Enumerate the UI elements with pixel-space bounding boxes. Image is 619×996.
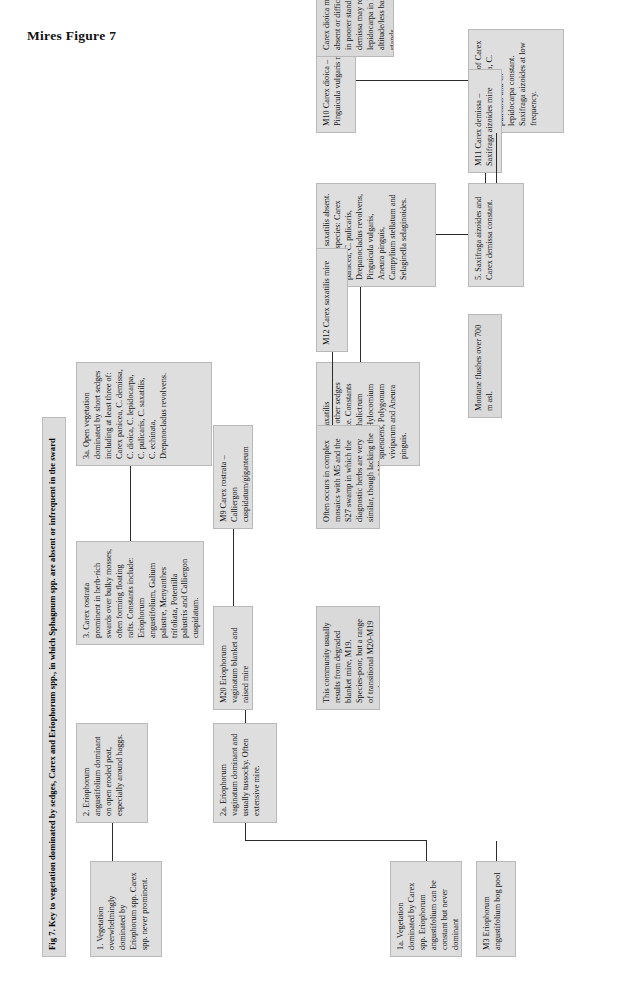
node-5: 5. Saxifraga aizoides and Carex demissa … <box>468 183 524 287</box>
figure-inner: Fig 7. Key to vegetation dominated by se… <box>30 33 590 963</box>
community-m20: M20 Eriophorum vaginatum blanket and rai… <box>213 606 253 710</box>
note-m9: Often occurs in complex mosaics with M5 … <box>316 425 380 529</box>
figure-caption: Fig 7. Key to vegetation dominated by se… <box>42 417 66 957</box>
connector-1-to-2 <box>112 823 113 861</box>
connector-5-to-m11 <box>485 173 486 183</box>
connector-2a-to-m20 <box>245 710 246 723</box>
connector-4-to-m12 <box>332 352 333 425</box>
community-m12: M12 Carex saxatilis mire <box>316 248 348 352</box>
node-2: 2. Eriophorum angustifolium dominant on … <box>76 723 148 823</box>
node-3a: 3a. Open vegetation dominated by short s… <box>76 362 212 466</box>
note-m12: Montane flushes over 700 m asl. <box>468 314 502 418</box>
connector-3-to-3a <box>130 466 131 541</box>
note-m20: This community usually results from degr… <box>316 606 380 710</box>
connector-1a-to-2a <box>245 823 246 841</box>
figure-canvas: Fig 7. Key to vegetation dominated by se… <box>30 33 590 963</box>
community-m9: M9 Carex rostrata – Calliergon cuspidatu… <box>213 425 253 529</box>
community-m3: M3 Eriophorum angustifolium bog pool <box>476 861 516 957</box>
node-3: 3. Carex rostrata prominent in herb-rich… <box>76 541 204 645</box>
connector-5-to-5a <box>496 133 497 183</box>
connector-1a-vertical <box>245 840 427 841</box>
node-2a: 2a. Eriophorum vaginatum dominant and us… <box>213 723 277 823</box>
node-1a: 1a. Vegetation dominated by Carex spp. E… <box>390 861 462 957</box>
connector-1a-stem <box>426 841 427 861</box>
connector-3-to-m9 <box>233 529 234 606</box>
connector-4-to-4a <box>360 287 361 362</box>
connector-5a-to-m10 <box>356 80 468 81</box>
note-m10: Carex dioica may be absent or difficult … <box>316 0 394 57</box>
node-1: 1. Vegetation overwhelmingly dominated b… <box>90 861 162 957</box>
connector-4a-to-5 <box>436 234 468 235</box>
connector-m3-stem <box>496 841 497 861</box>
